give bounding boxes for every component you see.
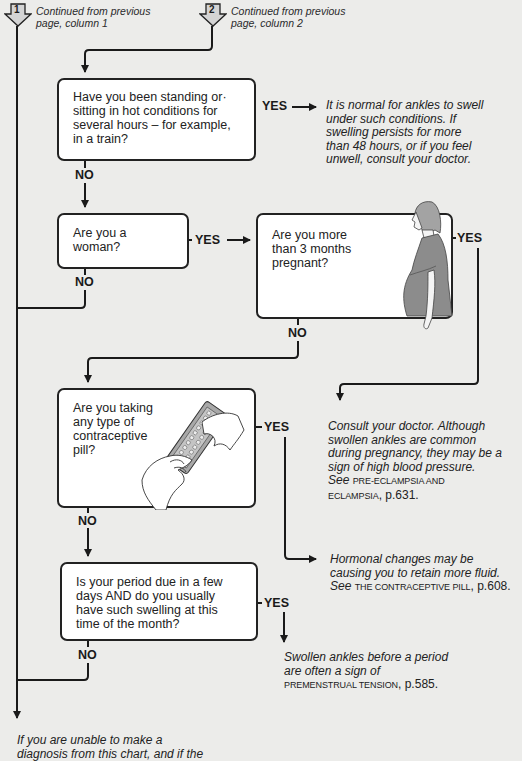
cross-reference-premenstrual-tension[interactable]: PREMENSTRUAL TENSION (284, 680, 398, 690)
no-label-q4: NO (78, 514, 97, 528)
yes-label-q1: YES (262, 99, 287, 113)
yes-label-q2: YES (195, 233, 220, 247)
yes-label-q3: YES (457, 231, 482, 245)
yes-label-q4: YES (264, 420, 289, 434)
answer-pregnant: Consult your doctor. Although swollen an… (328, 420, 502, 503)
answer-contraceptive-pill: Hormonal changes may be causing you to r… (330, 553, 511, 595)
question-box-period: Is your period due in a few days AND do … (60, 562, 258, 641)
no-label-q3: NO (288, 326, 307, 340)
yes-label-q5: YES (264, 596, 289, 610)
answer-hot-conditions: It is normal for ankles to swell under s… (326, 99, 483, 167)
no-label-q1: NO (75, 168, 94, 182)
continuation-arrow-1: 1 (4, 3, 32, 27)
continuation-arrow-2: 2 (199, 3, 227, 27)
question-box-hot-conditions: Have you been standing or· sitting in ho… (57, 78, 256, 161)
cross-reference-pre-eclampsia[interactable]: PRE-ECLAMPSIA AND (353, 476, 445, 486)
continuation-note-2: Continued from previous page, column 2 (231, 5, 345, 29)
cross-reference-eclampsia[interactable]: ECLAMPSIA (328, 491, 379, 501)
no-label-q2: NO (75, 275, 94, 289)
no-label-q5: NO (78, 648, 97, 662)
continuation-number-2: 2 (209, 4, 215, 15)
cross-reference-contraceptive-pill[interactable]: THE CONTRACEPTIVE PILL (355, 582, 471, 592)
final-note: If you are unable to make a diagnosis fr… (17, 734, 203, 761)
answer-period: Swollen ankles before a period are often… (284, 651, 448, 693)
pill-pack-hands-illustration (140, 400, 250, 510)
question-box-woman: Are you a woman? (57, 213, 189, 269)
pregnant-woman-illustration (392, 200, 454, 334)
continuation-note-1: Continued from previous page, column 1 (36, 5, 150, 29)
continuation-number-1: 1 (14, 4, 20, 15)
